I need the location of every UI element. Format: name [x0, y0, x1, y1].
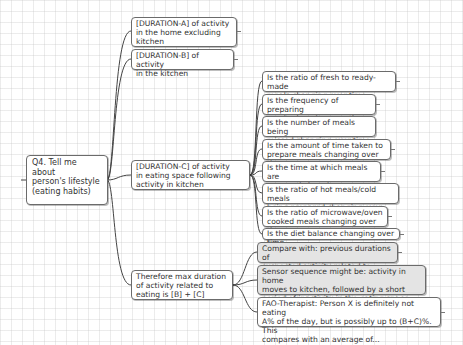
collapse-handle[interactable] — [388, 216, 392, 217]
branch-node-duration-b[interactable]: [DURATION-B] of activity in the kitchen — [131, 49, 234, 70]
question-node-missed-meals[interactable]: Is the number of meals being missed chan… — [262, 116, 376, 137]
note-node-compare[interactable]: Compare with: previous durations of susp… — [257, 242, 398, 263]
collapse-handle[interactable] — [234, 59, 238, 60]
mind-map-canvas: Q4. Tell me about person's lifestyle (ea… — [0, 0, 463, 345]
collapse-handle[interactable] — [376, 104, 380, 105]
collapse-handle[interactable] — [398, 252, 402, 253]
note-node-fao-therapist[interactable]: FAO-Therapist: Person X is definitely no… — [257, 297, 441, 327]
branch-node-duration-c[interactable]: [DURATION-C] of activity in eating space… — [131, 160, 250, 190]
branch-node-duration-a[interactable]: [DURATION-A] of activity in the home exc… — [131, 17, 237, 47]
collapse-handle[interactable] — [396, 81, 400, 82]
collapse-handle[interactable] — [381, 171, 385, 172]
question-node-microwave-ratio[interactable]: Is the ratio of microwave/oven cooked me… — [262, 206, 388, 227]
question-node-fresh-ratio[interactable]: Is the ratio of fresh to ready-made meal… — [262, 71, 396, 92]
question-node-meal-timing[interactable]: Is the time at which meals are prepared … — [262, 161, 381, 182]
question-node-hot-cold-ratio[interactable]: Is the ratio of hot meals/cold meals bei… — [262, 183, 399, 204]
collapse-handle[interactable] — [391, 149, 395, 150]
root-node[interactable]: Q4. Tell me about person's lifestyle (ea… — [26, 155, 108, 205]
branch-node-therefore[interactable]: Therefore max duration of activity relat… — [131, 270, 233, 300]
note-node-sensor-sequence[interactable]: Sensor sequence might be: activity in ho… — [257, 265, 426, 295]
collapse-handle[interactable] — [400, 234, 404, 235]
collapse-handle[interactable] — [237, 31, 241, 32]
question-node-prep-time[interactable]: Is the amount of time taken to prepare m… — [262, 139, 391, 160]
collapse-handle[interactable] — [441, 312, 445, 313]
question-node-diet-balance[interactable]: Is the diet balance changing over time — [262, 228, 400, 240]
question-node-frequency[interactable]: Is the frequency of preparing meals chan… — [262, 94, 376, 115]
